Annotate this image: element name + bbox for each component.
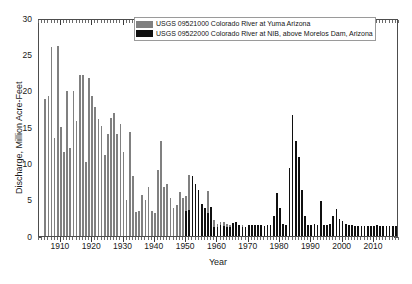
bar bbox=[220, 225, 222, 236]
bar bbox=[79, 75, 81, 236]
x-tick-mark-top bbox=[126, 20, 127, 23]
bar bbox=[304, 216, 306, 236]
x-tick-mark-minor bbox=[345, 237, 346, 240]
bar bbox=[270, 225, 272, 236]
x-tick-mark-minor bbox=[85, 237, 86, 240]
x-tick-mark-minor bbox=[376, 237, 377, 240]
y-tick-label-25: 25 bbox=[4, 51, 32, 60]
x-tick-mark-top bbox=[44, 20, 45, 23]
x-tick-mark-minor bbox=[94, 237, 95, 240]
x-tick-mark-minor bbox=[398, 237, 399, 240]
bar bbox=[323, 225, 325, 236]
x-tick-mark-minor bbox=[160, 237, 161, 240]
x-tick-mark-top bbox=[94, 20, 95, 23]
x-tick-mark-minor bbox=[151, 237, 152, 240]
x-tick-mark-minor bbox=[157, 237, 158, 240]
x-tick-mark-minor bbox=[320, 237, 321, 240]
bar bbox=[382, 226, 384, 236]
bar bbox=[217, 227, 219, 236]
x-tick-mark-minor bbox=[135, 237, 136, 240]
x-tick-mark-top bbox=[376, 20, 377, 23]
bar bbox=[170, 198, 172, 237]
bar bbox=[141, 195, 143, 236]
bar bbox=[207, 213, 209, 236]
bar bbox=[107, 134, 109, 236]
bar bbox=[48, 96, 50, 236]
x-tick-mark-minor bbox=[226, 237, 227, 240]
x-tick-mark-minor bbox=[301, 237, 302, 240]
bar bbox=[342, 221, 344, 236]
y-tick-label-10: 10 bbox=[4, 160, 32, 169]
legend-swatch-nib bbox=[136, 30, 153, 37]
x-tick-mark-minor bbox=[88, 237, 89, 240]
x-tick-mark-minor bbox=[220, 237, 221, 240]
x-tick-mark-minor bbox=[101, 237, 102, 240]
x-tick-mark-minor bbox=[282, 237, 283, 240]
bar bbox=[392, 226, 394, 236]
x-tick-mark-minor bbox=[126, 237, 127, 240]
bar bbox=[267, 225, 269, 236]
x-tick-mark-top bbox=[110, 20, 111, 23]
chart-figure: Discharge, Million Acre-Feet 05101520253… bbox=[0, 0, 412, 284]
bar bbox=[104, 155, 106, 236]
bar bbox=[361, 226, 363, 236]
x-tick-mark-minor bbox=[97, 237, 98, 240]
x-tick-mark-top bbox=[91, 20, 92, 25]
x-tick-mark-minor bbox=[257, 237, 258, 240]
x-tick-mark-top bbox=[129, 20, 130, 23]
bar bbox=[326, 225, 328, 236]
bar bbox=[85, 162, 87, 236]
x-tick-mark-top bbox=[123, 20, 124, 25]
y-tick-label-30: 30 bbox=[4, 15, 32, 24]
x-tick-mark-top bbox=[60, 20, 61, 25]
bar bbox=[257, 225, 259, 236]
x-tick-mark-top bbox=[47, 20, 48, 23]
x-tick-mark-minor bbox=[307, 237, 308, 240]
x-tick-mark-top bbox=[392, 20, 393, 23]
x-tick-mark-top bbox=[69, 20, 70, 23]
legend-swatch-yuma bbox=[136, 21, 153, 28]
bar bbox=[260, 225, 262, 236]
x-tick-mark-top bbox=[79, 20, 80, 23]
bar bbox=[66, 91, 68, 236]
x-tick-mark-top bbox=[379, 20, 380, 23]
x-tick-mark-top bbox=[63, 20, 64, 23]
bar bbox=[395, 226, 397, 236]
bar bbox=[310, 225, 312, 236]
x-tick-mark-minor bbox=[288, 237, 289, 240]
y-tick-label-0: 0 bbox=[4, 233, 32, 242]
x-tick-mark-minor bbox=[169, 237, 170, 240]
x-tick-mark-minor bbox=[129, 237, 130, 240]
bar bbox=[69, 148, 71, 236]
bar bbox=[279, 208, 281, 236]
x-tick-mark-minor bbox=[79, 237, 80, 240]
bar bbox=[223, 226, 225, 236]
bar bbox=[126, 200, 128, 236]
x-tick-mark-minor bbox=[119, 237, 120, 240]
bar bbox=[110, 118, 112, 236]
bar bbox=[182, 198, 184, 236]
bar bbox=[238, 225, 240, 236]
x-tick-mark-minor bbox=[110, 237, 111, 240]
x-tick-mark-minor bbox=[370, 237, 371, 240]
x-tick-mark-top bbox=[54, 20, 55, 23]
x-tick-mark-minor bbox=[298, 237, 299, 240]
bar bbox=[138, 211, 140, 236]
x-tick-mark-minor bbox=[51, 237, 52, 240]
x-tick-mark-top bbox=[395, 20, 396, 23]
x-tick-mark-minor bbox=[295, 237, 296, 240]
x-tick-mark-minor bbox=[148, 237, 149, 240]
bar bbox=[329, 224, 331, 236]
x-tick-mark-minor bbox=[132, 237, 133, 240]
bar bbox=[44, 99, 46, 236]
x-tick-mark-top bbox=[132, 20, 133, 23]
x-tick-mark-minor bbox=[251, 237, 252, 240]
y-axis-title: Discharge, Million Acre-Feet bbox=[14, 81, 24, 194]
x-tick-mark-minor bbox=[392, 237, 393, 240]
x-tick-mark-minor bbox=[173, 237, 174, 240]
bar bbox=[123, 152, 125, 236]
bar bbox=[129, 132, 131, 236]
bar bbox=[373, 226, 375, 236]
bar bbox=[235, 222, 237, 236]
x-tick-mark-minor bbox=[263, 237, 264, 240]
